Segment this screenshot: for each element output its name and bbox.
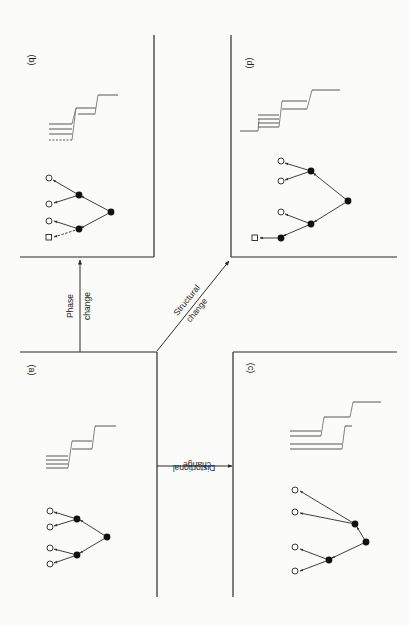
node-root-c xyxy=(363,539,370,546)
panel-d: (d) xyxy=(231,35,397,257)
node-leaf-a-2 xyxy=(47,524,53,530)
node-mid-d-3 xyxy=(278,235,285,242)
node-leaf-d-3 xyxy=(278,209,284,215)
decay-tree-a xyxy=(54,512,107,563)
node-leaf-d-1 xyxy=(278,158,284,164)
panel-b: (b) xyxy=(20,35,154,257)
node-mid-b-2 xyxy=(76,226,83,233)
energy-levels-a xyxy=(46,426,116,468)
transition-structural-change: Structural change xyxy=(157,261,229,351)
node-mid-d-1 xyxy=(308,168,315,175)
node-leaf-c-3 xyxy=(292,544,298,550)
energy-levels-d xyxy=(240,90,340,131)
transition-phase-change: Phase change xyxy=(65,260,92,352)
phase-change-label-1: Phase xyxy=(65,294,75,318)
panel-c: (c) xyxy=(233,352,397,597)
decay-tree-c xyxy=(300,491,366,571)
distortional-change-label-2: change xyxy=(183,460,211,470)
node-mid-d-2 xyxy=(308,221,315,228)
decay-tree-d xyxy=(260,163,348,238)
node-mid-b-1 xyxy=(76,192,83,199)
panel-d-label: (d) xyxy=(245,58,255,69)
transition-distortional-change: Distortional change xyxy=(157,460,232,473)
node-mid-a-2 xyxy=(74,552,81,559)
panel-b-label: (b) xyxy=(27,55,37,66)
node-root-d xyxy=(345,198,352,205)
energy-levels-b xyxy=(49,95,118,140)
node-leaf-c-1 xyxy=(292,487,298,493)
phase-change-label-2: change xyxy=(82,292,92,320)
node-leaf-b-2 xyxy=(46,201,52,207)
figure-canvas: (b) xyxy=(0,0,409,626)
node-leaf-b-1 xyxy=(46,175,52,181)
node-leaf-c-4 xyxy=(292,568,298,574)
node-mid-a-1 xyxy=(74,516,81,523)
panel-c-label: (c) xyxy=(246,363,256,374)
node-mid-c-1 xyxy=(352,521,359,528)
node-leaf-a-3 xyxy=(47,545,53,551)
node-leaf-c-2 xyxy=(292,509,298,515)
energy-levels-c xyxy=(290,402,381,449)
panel-a-label: (a) xyxy=(27,365,37,376)
node-leaf-d-2 xyxy=(278,178,284,184)
node-square-d xyxy=(252,235,258,241)
node-leaf-b-3 xyxy=(46,218,52,224)
node-leaf-a-1 xyxy=(47,508,53,514)
node-mid-c-2 xyxy=(326,557,333,564)
node-leaf-a-4 xyxy=(47,561,53,567)
node-root-b xyxy=(108,209,115,216)
node-root-a xyxy=(104,534,111,541)
panel-a: (a) xyxy=(20,352,157,597)
node-square-b xyxy=(46,235,52,241)
